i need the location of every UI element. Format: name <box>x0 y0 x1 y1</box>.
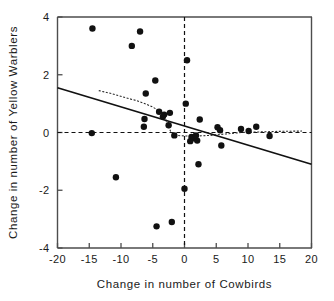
data-point <box>218 142 224 148</box>
data-point <box>89 25 95 31</box>
data-point <box>238 126 244 132</box>
data-point <box>143 90 149 96</box>
data-point <box>89 130 95 136</box>
data-point <box>183 100 189 106</box>
data-point <box>152 77 158 83</box>
data-point <box>137 28 143 34</box>
y-tick-label: 0 <box>43 127 50 139</box>
y-tick-label: 4 <box>43 11 50 23</box>
x-axis-tick-labels: -20-15-10-505101520 <box>49 253 318 265</box>
data-point <box>253 124 259 130</box>
reference-lines <box>58 17 312 248</box>
y-tick-label: -4 <box>39 242 50 254</box>
y-axis-title: Change in number of Yellow Warblers <box>7 26 19 239</box>
data-point <box>169 219 175 225</box>
y-tick-label: -2 <box>39 184 50 196</box>
x-tick-label: 20 <box>305 253 318 265</box>
data-point <box>171 132 177 138</box>
x-tick-label: -10 <box>112 253 129 265</box>
data-point <box>266 133 272 139</box>
x-tick-label: 0 <box>181 253 188 265</box>
chart-canvas: -20-15-10-505101520 -4-2024 Change in nu… <box>0 0 334 301</box>
data-points-group <box>89 25 273 229</box>
data-point <box>113 174 119 180</box>
x-tick-label: 15 <box>273 253 286 265</box>
data-point <box>187 138 193 144</box>
data-point <box>153 223 159 229</box>
x-tick-label: -5 <box>147 253 158 265</box>
x-tick-label: -15 <box>81 253 98 265</box>
data-point <box>217 127 223 133</box>
y-axis-tick-labels: -4-2024 <box>39 11 50 254</box>
data-point <box>141 124 147 130</box>
data-point <box>184 57 190 63</box>
lowess-smoother-line <box>99 91 302 136</box>
x-tick-label: 10 <box>241 253 254 265</box>
data-point <box>197 116 203 122</box>
data-point <box>167 110 173 116</box>
data-point <box>129 43 135 49</box>
data-point <box>160 113 166 119</box>
data-point <box>193 132 199 138</box>
data-point <box>165 122 171 128</box>
data-point <box>245 128 251 134</box>
data-point <box>181 186 187 192</box>
x-tick-label: 5 <box>213 253 220 265</box>
scatter-plot-figure: -20-15-10-505101520 -4-2024 Change in nu… <box>0 0 334 301</box>
x-tick-label: -20 <box>49 253 66 265</box>
y-tick-label: 2 <box>43 69 50 81</box>
x-axis-title: Change in number of Cowbirds <box>97 278 272 290</box>
data-point <box>141 116 147 122</box>
data-point <box>195 161 201 167</box>
